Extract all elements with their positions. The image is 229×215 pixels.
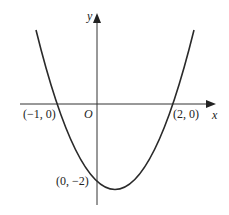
y-axis-arrow-icon: [93, 13, 101, 23]
x-axis-label: x: [212, 109, 217, 121]
parabola-curve: [36, 30, 194, 190]
origin-label: O: [84, 108, 93, 120]
point-label-neg1-0: (−1, 0): [23, 108, 56, 120]
x-axis-arrow-icon: [206, 100, 216, 108]
point-label-0-neg2: (0, −2): [56, 175, 89, 187]
point-label-2-0: (2, 0): [173, 108, 199, 120]
parabola-diagram: y x O (−1, 0) (2, 0) (0, −2): [0, 0, 229, 215]
y-axis-label: y: [87, 10, 92, 22]
